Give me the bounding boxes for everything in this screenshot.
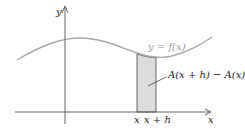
curve-label: y = f(x) xyxy=(148,42,186,52)
tick-x-plus-h-label: x + h xyxy=(144,115,171,125)
tick-x-label: x xyxy=(134,115,140,125)
x-axis xyxy=(15,109,211,115)
y-axis xyxy=(62,6,68,124)
x-axis-label: x xyxy=(208,115,214,125)
diagram-canvas xyxy=(0,0,245,129)
area-label: A(x + h) − A(x) xyxy=(168,70,245,80)
y-axis-label: y xyxy=(56,7,62,17)
